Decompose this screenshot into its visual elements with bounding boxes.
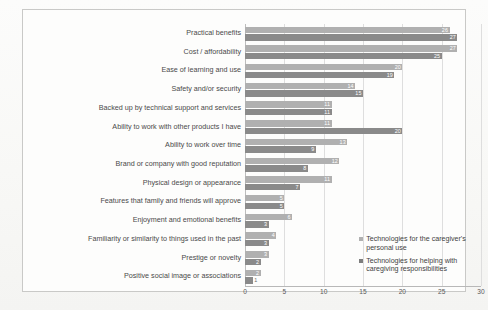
x-axis-tick-labels: 051015202530 bbox=[245, 288, 481, 300]
category-label: Safety and/or security bbox=[51, 80, 241, 99]
x-tick-label-25: 25 bbox=[438, 288, 445, 295]
bar-series-0: 11 bbox=[245, 101, 332, 107]
category-label: Ability to work over time bbox=[51, 136, 241, 155]
category-label: Ability to work with other products I ha… bbox=[51, 118, 241, 137]
bar-series-0: 3 bbox=[245, 251, 269, 257]
x-tick-label-5: 5 bbox=[282, 288, 286, 295]
bar-series-1: 27 bbox=[245, 34, 457, 40]
bar-value-label: 11 bbox=[324, 120, 330, 126]
category-label: Prestige or novelty bbox=[51, 249, 241, 268]
bar-value-label: 3 bbox=[264, 251, 267, 257]
bar-row: 55 bbox=[245, 192, 481, 211]
category-label: Features that family and friends will ap… bbox=[51, 192, 241, 211]
bar-series-1: 11 bbox=[245, 109, 332, 115]
category-label: Practical benefits bbox=[51, 24, 241, 43]
bar-series-0: 13 bbox=[245, 139, 347, 145]
x-tick-label-20: 20 bbox=[399, 288, 406, 295]
bar-row: 63 bbox=[245, 211, 481, 230]
bar-value-label: 5 bbox=[280, 195, 283, 201]
category-label: Familiarity or similarity to things used… bbox=[51, 230, 241, 249]
bar-series-0: 20 bbox=[245, 64, 402, 70]
legend-swatch-icon bbox=[359, 237, 363, 241]
bar-row: 139 bbox=[245, 136, 481, 155]
bar-value-label: 25 bbox=[434, 53, 440, 59]
legend-item[interactable]: Technologies for the caregiver's persona… bbox=[359, 235, 485, 252]
bar-value-label: 3 bbox=[264, 221, 267, 227]
bar-series-0: 12 bbox=[245, 158, 339, 164]
legend-swatch-icon bbox=[359, 259, 363, 263]
bar-value-label: 20 bbox=[395, 64, 401, 70]
bar-series-1: 2 bbox=[245, 259, 261, 265]
legend-label: Technologies for helping with caregiving… bbox=[366, 257, 485, 274]
bar-series-1: 9 bbox=[245, 146, 316, 152]
bar-series-0: 26 bbox=[245, 27, 450, 33]
category-axis-labels: Practical benefitsCost / affordabilityEa… bbox=[51, 24, 241, 286]
bar-series-0: 11 bbox=[245, 120, 332, 126]
page-background: Practical benefitsCost / affordabilityEa… bbox=[0, 0, 488, 310]
bar-value-label: 3 bbox=[264, 240, 267, 246]
x-tick-label-30: 30 bbox=[477, 288, 484, 295]
bar-value-label: 11 bbox=[324, 109, 330, 115]
category-label: Ease of learning and use bbox=[51, 61, 241, 80]
bar-series-1: 3 bbox=[245, 240, 269, 246]
bar-row: 1120 bbox=[245, 118, 481, 137]
bar-series-1: 20 bbox=[245, 128, 402, 134]
bar-row: 2725 bbox=[245, 43, 481, 62]
bar-value-label: 2 bbox=[256, 270, 259, 276]
bar-value-label: 12 bbox=[332, 158, 338, 164]
bar-value-label: 20 bbox=[395, 128, 401, 134]
bar-series-1: 8 bbox=[245, 165, 308, 171]
bar-series-0: 14 bbox=[245, 83, 355, 89]
category-label: Enjoyment and emotional benefits bbox=[51, 211, 241, 230]
bar-row: 117 bbox=[245, 174, 481, 193]
bar-series-1: 7 bbox=[245, 184, 300, 190]
x-tick-label-0: 0 bbox=[243, 288, 247, 295]
bar-series-1: 25 bbox=[245, 53, 442, 59]
bar-value-label: 27 bbox=[450, 45, 456, 51]
category-label: Backed up by technical support and servi… bbox=[51, 99, 241, 118]
x-axis-line bbox=[245, 286, 481, 287]
category-label: Physical design or appearance bbox=[51, 174, 241, 193]
bar-row: 1111 bbox=[245, 99, 481, 118]
bar-series-0: 5 bbox=[245, 195, 284, 201]
bar-series-1: 5 bbox=[245, 203, 284, 209]
bar-value-label: 27 bbox=[450, 34, 456, 40]
bar-value-label: 2 bbox=[256, 259, 259, 265]
bar-row: 2627 bbox=[245, 24, 481, 43]
bar-value-label: 11 bbox=[324, 101, 330, 107]
bar-value-label: 5 bbox=[280, 203, 283, 209]
category-label: Cost / affordability bbox=[51, 43, 241, 62]
bar-value-label: 11 bbox=[324, 176, 330, 182]
bar-series-0: 27 bbox=[245, 45, 457, 51]
bar-value-label: 6 bbox=[288, 214, 291, 220]
bar-series-0: 6 bbox=[245, 214, 292, 220]
bar-value-label: 4 bbox=[272, 232, 275, 238]
bar-value-label: 14 bbox=[347, 83, 353, 89]
bar-value-label: 13 bbox=[340, 139, 346, 145]
bar-value-label: 26 bbox=[442, 27, 448, 33]
bar-value-label: 1 bbox=[254, 277, 257, 283]
legend-label: Technologies for the caregiver's persona… bbox=[366, 235, 485, 252]
bar-row: 2019 bbox=[245, 61, 481, 80]
x-tick-label-10: 10 bbox=[320, 288, 327, 295]
bar-row: 1415 bbox=[245, 80, 481, 99]
bar-series-1: 3 bbox=[245, 221, 269, 227]
bar-series-0: 2 bbox=[245, 270, 261, 276]
bar-value-label: 19 bbox=[387, 72, 393, 78]
x-tick-label-15: 15 bbox=[359, 288, 366, 295]
bar-value-label: 9 bbox=[311, 146, 314, 152]
chart-legend: Technologies for the caregiver's persona… bbox=[359, 235, 485, 278]
chart-frame: Practical benefitsCost / affordabilityEa… bbox=[22, 9, 466, 292]
category-label: Brand or company with good reputation bbox=[51, 155, 241, 174]
category-label: Positive social image or associations bbox=[51, 267, 241, 286]
bar-series-1: 1 bbox=[245, 277, 253, 283]
bar-value-label: 15 bbox=[355, 90, 361, 96]
bar-series-1: 15 bbox=[245, 90, 363, 96]
bar-series-0: 4 bbox=[245, 232, 276, 238]
bar-value-label: 7 bbox=[295, 184, 298, 190]
bar-row: 128 bbox=[245, 155, 481, 174]
bar-value-label: 8 bbox=[303, 165, 306, 171]
bar-series-1: 19 bbox=[245, 72, 394, 78]
legend-item[interactable]: Technologies for helping with caregiving… bbox=[359, 257, 485, 274]
bar-series-0: 11 bbox=[245, 176, 332, 182]
